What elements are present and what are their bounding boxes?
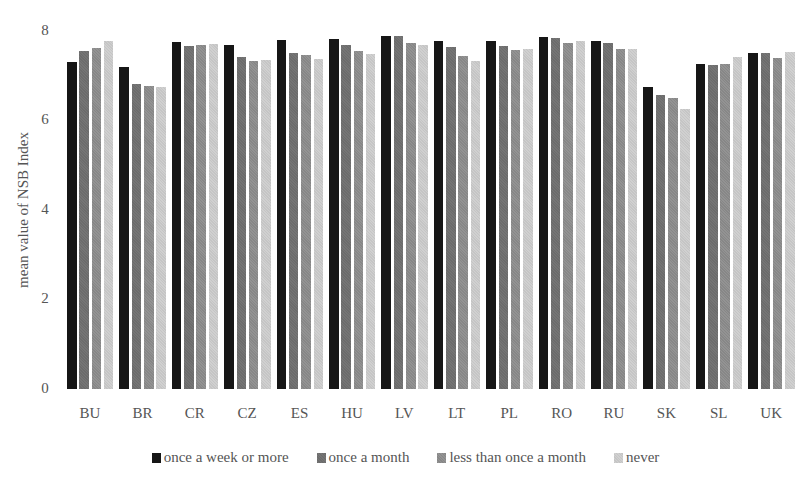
bar-es-series-3 <box>314 59 324 389</box>
bar-ru-series-2 <box>616 49 626 389</box>
legend-label: once a month <box>329 449 410 466</box>
bar-lv-series-3 <box>418 45 428 389</box>
bar-sl-series-2 <box>720 64 730 389</box>
x-tick-label: CZ <box>221 405 273 422</box>
bar-cz-series-2 <box>249 61 259 389</box>
bar-sk-series-0 <box>643 87 653 389</box>
bar-uk-series-2 <box>773 58 783 389</box>
y-tick-label: 8 <box>38 22 52 39</box>
bar-cz-series-3 <box>261 60 271 389</box>
bar-sk-series-2 <box>668 98 678 389</box>
x-tick-label: LT <box>431 405 483 422</box>
legend-item: less than once a month <box>437 449 586 466</box>
bar-ro-series-0 <box>539 37 549 389</box>
x-tick-label: BU <box>64 405 116 422</box>
legend-item: once a week or more <box>152 449 289 466</box>
bar-lt-series-3 <box>471 61 481 389</box>
y-tick-label: 4 <box>38 201 52 218</box>
legend-swatch-icon <box>437 453 446 463</box>
bar-lt-series-2 <box>458 56 468 389</box>
bar-hu-series-1 <box>341 45 351 389</box>
bar-sk-series-1 <box>656 95 666 389</box>
bar-uk-series-3 <box>785 52 795 389</box>
bar-bu-series-2 <box>92 48 102 389</box>
legend-label: once a week or more <box>164 449 289 466</box>
bar-cr-series-3 <box>209 44 219 389</box>
bar-cr-series-2 <box>196 45 206 389</box>
bar-ro-series-2 <box>563 43 573 389</box>
x-tick-label: SL <box>693 405 745 422</box>
x-tick-label: LV <box>378 405 430 422</box>
legend-swatch-icon <box>614 453 623 463</box>
bar-bu-series-0 <box>67 62 77 389</box>
bar-ru-series-3 <box>628 49 638 389</box>
bar-lv-series-1 <box>394 36 404 389</box>
bar-ro-series-1 <box>551 38 561 389</box>
x-tick-label: RU <box>588 405 640 422</box>
bar-ro-series-3 <box>576 41 586 389</box>
x-tick-label: HU <box>326 405 378 422</box>
bar-uk-series-0 <box>748 53 758 389</box>
y-tick-label: 0 <box>38 380 52 397</box>
x-tick-label: SK <box>640 405 692 422</box>
legend-label: less than once a month <box>449 449 586 466</box>
bar-hu-series-2 <box>354 51 364 389</box>
bar-cr-series-0 <box>172 42 182 389</box>
bar-cr-series-1 <box>184 46 194 389</box>
bar-cz-series-0 <box>224 45 234 389</box>
bar-pl-series-2 <box>511 50 521 389</box>
legend-item: once a month <box>317 449 410 466</box>
x-tick-label: RO <box>536 405 588 422</box>
legend-swatch-icon <box>152 453 161 463</box>
bar-br-series-1 <box>132 84 142 389</box>
bar-es-series-1 <box>289 53 299 389</box>
bar-es-series-2 <box>301 55 311 389</box>
bar-pl-series-0 <box>486 41 496 389</box>
y-tick-label: 6 <box>38 111 52 128</box>
bar-lt-series-1 <box>446 47 456 389</box>
legend-label: never <box>626 449 659 466</box>
bar-uk-series-1 <box>761 53 771 389</box>
x-tick-label: UK <box>745 405 797 422</box>
bar-lv-series-0 <box>381 36 391 389</box>
bar-es-series-0 <box>277 40 287 389</box>
legend: once a week or moreonce a monthless than… <box>0 449 811 466</box>
bar-sk-series-3 <box>680 109 690 389</box>
bar-ru-series-1 <box>603 43 613 389</box>
bar-bu-series-3 <box>104 41 114 389</box>
bar-bu-series-1 <box>79 51 89 389</box>
bar-br-series-3 <box>156 87 166 389</box>
bar-ru-series-0 <box>591 41 601 389</box>
bar-cz-series-1 <box>237 57 247 389</box>
y-tick-label: 2 <box>38 290 52 307</box>
bar-br-series-2 <box>144 86 154 389</box>
bar-br-series-0 <box>119 67 129 389</box>
bar-pl-series-3 <box>523 49 533 389</box>
bar-sl-series-3 <box>733 57 743 389</box>
bar-sl-series-1 <box>708 65 718 389</box>
x-tick-label: PL <box>483 405 535 422</box>
bar-pl-series-1 <box>499 46 509 389</box>
x-tick-label: CR <box>169 405 221 422</box>
legend-swatch-icon <box>317 453 326 463</box>
bar-hu-series-0 <box>329 39 339 389</box>
legend-item: never <box>614 449 659 466</box>
bar-hu-series-3 <box>366 54 376 389</box>
x-tick-label: BR <box>116 405 168 422</box>
bar-lv-series-2 <box>406 43 416 389</box>
bar-chart: mean value of NSB Index 02468 BUBRCRCZES… <box>0 0 811 480</box>
x-tick-label: ES <box>274 405 326 422</box>
y-axis-label: mean value of NSB Index <box>15 132 32 288</box>
bar-lt-series-0 <box>434 41 444 389</box>
bar-sl-series-0 <box>696 64 706 389</box>
